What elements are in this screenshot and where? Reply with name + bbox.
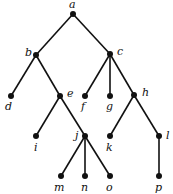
node-label-j: j xyxy=(72,129,79,142)
edge-b-d xyxy=(11,55,36,96)
node-o xyxy=(107,173,113,179)
node-label-o: o xyxy=(106,181,113,194)
node-label-a: a xyxy=(69,0,76,11)
node-label-b: b xyxy=(25,46,32,59)
edge-e-i xyxy=(36,96,60,136)
node-label-n: n xyxy=(81,181,88,194)
node-label-k: k xyxy=(106,141,113,154)
tree-diagram: abcdefghijklmnop xyxy=(0,0,173,194)
edge-b-e xyxy=(36,55,60,96)
node-label-l: l xyxy=(166,129,170,142)
node-k xyxy=(107,133,113,139)
edge-h-k xyxy=(110,95,134,136)
node-label-d: d xyxy=(5,100,12,113)
node-p xyxy=(156,173,162,179)
node-label-f: f xyxy=(80,100,87,113)
node-label-g: g xyxy=(106,100,113,113)
node-label-h: h xyxy=(142,86,149,99)
node-label-m: m xyxy=(54,181,64,194)
edge-c-h xyxy=(110,54,134,95)
node-label-c: c xyxy=(117,45,123,58)
node-e xyxy=(57,93,63,99)
node-label-p: p xyxy=(155,181,162,194)
node-a xyxy=(70,11,76,17)
edge-j-m xyxy=(61,136,85,176)
edge-a-c xyxy=(73,14,110,54)
node-label-i: i xyxy=(34,141,38,154)
node-label-e: e xyxy=(67,87,74,100)
node-g xyxy=(107,93,113,99)
node-i xyxy=(33,133,39,139)
edge-h-l xyxy=(134,95,159,136)
node-j xyxy=(82,133,88,139)
node-c xyxy=(107,51,113,57)
node-h xyxy=(131,92,137,98)
node-n xyxy=(82,173,88,179)
node-b xyxy=(33,52,39,58)
edge-c-f xyxy=(85,54,110,96)
node-d xyxy=(8,93,14,99)
node-l xyxy=(156,133,162,139)
node-m xyxy=(58,173,64,179)
edge-a-b xyxy=(36,14,73,55)
node-f xyxy=(82,93,88,99)
